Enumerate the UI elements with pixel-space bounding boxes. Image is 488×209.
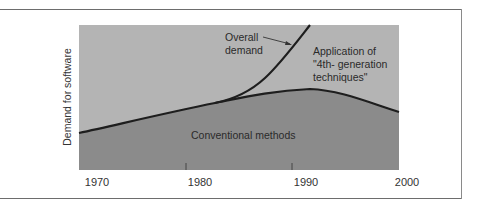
fourth-gen-label: Application of "4th- generation techniqu… (313, 45, 387, 84)
x-tick-1980: 1980 (188, 176, 212, 188)
overall-demand-label: Overall demand (225, 31, 263, 57)
fourth-gen-line-2: "4th- generation (313, 58, 387, 71)
x-tick-1990: 1990 (294, 176, 318, 188)
x-tick-2000: 2000 (395, 176, 419, 188)
overall-demand-line-2: demand (225, 44, 263, 57)
overall-demand-line-1: Overall (225, 31, 263, 44)
conventional-methods-label: Conventional methods (191, 129, 295, 142)
y-axis-label: Demand for software (61, 48, 73, 145)
fourth-gen-line-1: Application of (313, 45, 387, 58)
x-tick-1970: 1970 (85, 176, 109, 188)
fourth-gen-line-3: techniques" (313, 71, 387, 84)
